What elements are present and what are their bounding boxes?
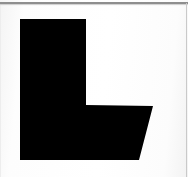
glyph-container <box>0 0 188 177</box>
scanned-glyph-page <box>0 0 188 177</box>
letter-l-glyph <box>0 0 188 177</box>
letter-l-shape <box>20 19 153 160</box>
